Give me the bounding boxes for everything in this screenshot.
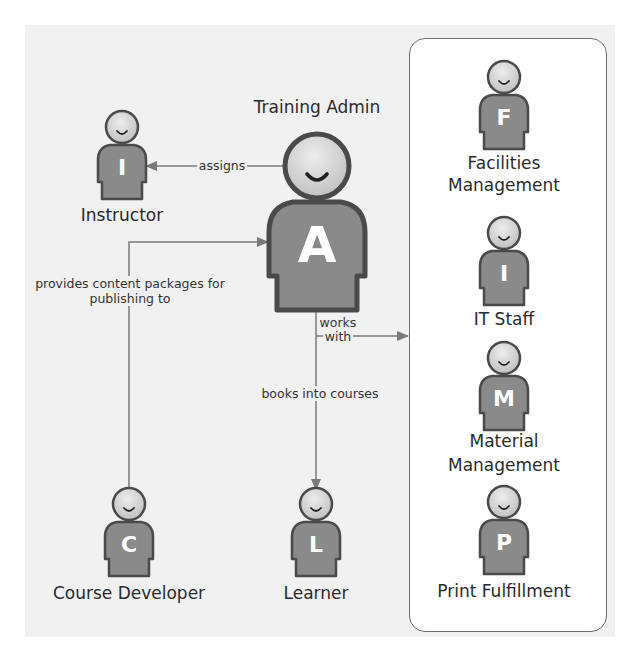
learner-letter: L — [309, 532, 323, 557]
print-letter: P — [496, 530, 512, 555]
label-material-line1: Material — [424, 430, 584, 452]
edge-label-assigns: assigns — [192, 158, 252, 173]
edge-label-provides-line1: provides content packages for — [30, 276, 230, 291]
label-facilities-line2: Management — [424, 174, 584, 196]
assigns-text: assigns — [197, 158, 248, 173]
books-text: books into courses — [259, 386, 380, 401]
material-letter: M — [493, 386, 515, 411]
instructor-letter: I — [118, 155, 126, 180]
it-staff-letter: I — [500, 261, 508, 286]
label-instructor: Instructor — [62, 204, 182, 226]
works-text-line2: with — [323, 329, 354, 344]
label-it-staff: IT Staff — [424, 308, 584, 330]
facilities-letter: F — [496, 105, 511, 130]
admin-letter: A — [298, 216, 337, 274]
provides-text-line2: publishing to — [87, 291, 172, 306]
label-print-fulfillment: Print Fulfillment — [424, 580, 584, 602]
developer-letter: C — [121, 532, 137, 557]
works-text-line1: works — [318, 315, 359, 330]
edge-label-works-line1: works — [316, 315, 360, 330]
edge-label-works-line2: with — [316, 329, 360, 344]
label-facilities-line1: Facilities — [424, 152, 584, 174]
label-learner: Learner — [276, 582, 356, 604]
label-material-line2: Management — [424, 454, 584, 476]
label-course-developer: Course Developer — [49, 582, 209, 604]
edge-label-books: books into courses — [250, 386, 390, 401]
edge-label-provides-line2: publishing to — [30, 291, 230, 306]
provides-text-line1: provides content packages for — [33, 276, 227, 291]
label-training-admin: Training Admin — [237, 96, 397, 118]
